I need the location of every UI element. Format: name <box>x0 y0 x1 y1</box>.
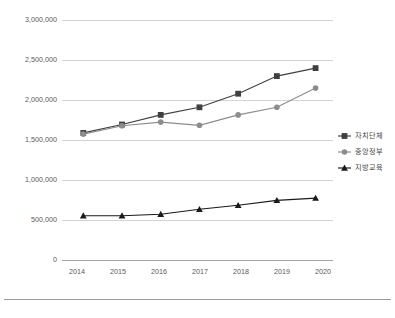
x-tick-label: 2019 <box>274 267 290 276</box>
data-point[interactable] <box>197 104 203 110</box>
data-point[interactable] <box>80 131 86 137</box>
y-tick-label: 2,500,000 <box>25 55 57 64</box>
y-tick-label: 2,000,000 <box>25 95 57 104</box>
line-chart: 3,000,000 2,500,000 2,000,000 1,500,000 … <box>0 0 395 318</box>
data-point[interactable] <box>313 85 319 91</box>
data-point[interactable] <box>119 123 125 129</box>
data-point[interactable] <box>313 65 319 71</box>
y-tick-label: 1,000,000 <box>25 175 57 184</box>
chart-canvas: 3,000,000 2,500,000 2,000,000 1,500,000 … <box>0 0 395 318</box>
chart-legend: 자치단체중앙정부지방교육 <box>338 131 383 172</box>
legend-marker-circle-icon <box>342 149 348 155</box>
data-point[interactable] <box>235 91 241 97</box>
x-tick-label: 2018 <box>233 267 249 276</box>
data-point[interactable] <box>197 123 203 129</box>
data-point[interactable] <box>235 112 241 118</box>
x-tick-label: 2017 <box>192 267 208 276</box>
y-tick-label: 3,000,000 <box>25 15 57 24</box>
data-point[interactable] <box>158 119 164 125</box>
y-tick-label: 500,000 <box>31 215 57 224</box>
legend-marker-square-icon <box>342 133 348 139</box>
x-tick-label: 2014 <box>69 267 85 276</box>
data-point[interactable] <box>158 112 164 118</box>
legend-label: 지방교육 <box>355 163 383 172</box>
data-point[interactable] <box>274 73 280 79</box>
x-tick-label: 2016 <box>151 267 167 276</box>
data-point[interactable] <box>274 105 280 111</box>
x-tick-label: 2015 <box>110 267 126 276</box>
x-tick-label: 2020 <box>315 267 331 276</box>
legend-label: 자치단체 <box>355 131 383 140</box>
y-tick-label: 0 <box>53 255 57 264</box>
legend-label: 중앙정부 <box>355 147 383 156</box>
y-tick-label: 1,500,000 <box>25 135 57 144</box>
